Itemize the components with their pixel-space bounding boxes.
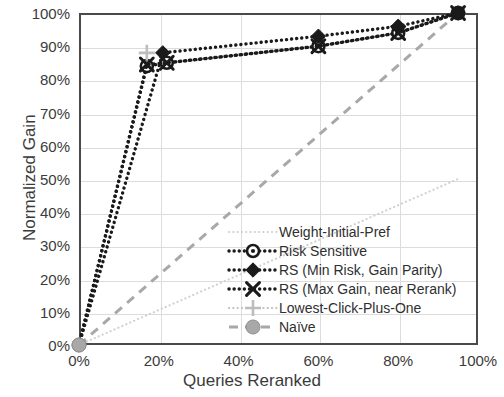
legend-item[interactable]: Lowest-Click-Plus-One [227,298,479,317]
y-tick-label: 0% [24,338,70,353]
gridline-horizontal [81,115,476,116]
gridline-horizontal [81,214,476,215]
legend-item-label: RS (Min Risk, Gain Parity) [279,263,442,277]
legend-item[interactable]: RS (Max Gain, near Rerank) [227,279,479,298]
legend-item-label: RS (Max Gain, near Rerank) [279,282,456,296]
x-tick-label: 40% [209,353,269,368]
gridline-vertical [161,15,162,343]
legend-marker-circle-filled-icon [227,319,279,335]
legend-item-label: Lowest-Click-Plus-One [279,301,421,315]
x-tick-label: 60% [288,353,348,368]
x-axis-title: Queries Reranked [0,371,504,391]
gridline-horizontal [81,148,476,149]
x-tick-label: 80% [368,353,428,368]
x-tick-label: 20% [129,353,189,368]
y-tick-label: 90% [24,39,70,54]
legend-item-label: Weight-Initial-Pref [279,225,390,239]
legend-marker-circle-dot-icon [227,243,279,259]
chart-container: Normalized Gain 100%90%80%70%60%50%40%30… [0,0,504,397]
y-tick-label: 10% [24,305,70,320]
y-tick-label: 30% [24,238,70,253]
gridline-horizontal [81,81,476,82]
y-tick-label: 60% [24,139,70,154]
legend-item-label: Risk Sensitive [279,244,367,258]
legend-item-label: Naïve [279,320,316,334]
legend-marker-diamond-icon [227,262,279,278]
chart-legend: Weight-Initial-PrefRisk SensitiveRS (Min… [227,222,479,336]
x-tick-label: 0% [49,353,109,368]
legend-marker-none-icon [227,224,279,240]
legend-item[interactable]: Risk Sensitive [227,241,479,260]
y-tick-label: 40% [24,205,70,220]
y-tick-label: 80% [24,72,70,87]
y-tick-label: 50% [24,172,70,187]
y-tick-label: 70% [24,106,70,121]
y-tick-label: 100% [24,6,70,21]
legend-item[interactable]: RS (Min Risk, Gain Parity) [227,260,479,279]
legend-item[interactable]: Naïve [227,317,479,336]
legend-marker-x-icon [227,281,279,297]
gridline-horizontal [81,48,476,49]
legend-item[interactable]: Weight-Initial-Pref [227,222,479,241]
legend-marker-plus-icon [227,300,279,316]
x-tick-label: 100% [448,353,504,368]
gridline-horizontal [81,181,476,182]
y-tick-label: 20% [24,272,70,287]
